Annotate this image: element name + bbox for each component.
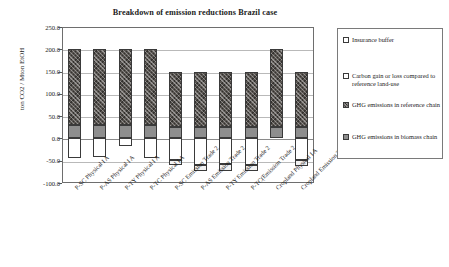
legend-swatch-buffer <box>343 37 349 43</box>
chart-legend: Insurance bufferCarbon gain or loss comp… <box>337 28 443 159</box>
y-axis-tick-label: 200.0 <box>20 46 60 53</box>
bar-segment-biomass <box>194 127 207 138</box>
legend-item[interactable]: Insurance buffer <box>343 36 442 44</box>
y-axis-tick-label: -50.0 <box>20 157 60 164</box>
bar-segment-reference <box>245 72 258 128</box>
chart-title: Breakdown of emission reductions Brazil … <box>60 8 330 18</box>
legend-label: GHG emissions in biomass chain <box>352 133 442 141</box>
legend-swatch-reference <box>343 102 349 108</box>
y-axis-tick-mark <box>58 183 62 184</box>
bar-segment-reference <box>219 72 232 128</box>
y-axis-title: ton CO2 / Mton EtOH <box>18 19 26 139</box>
bar-segment-reference <box>169 72 182 128</box>
bar-segment-reference <box>295 72 308 128</box>
bar-segment-biomass <box>219 127 232 138</box>
y-axis-tick-label: 0.0 <box>20 135 60 142</box>
bar-group[interactable] <box>68 27 81 183</box>
y-axis-tick-label: 150.0 <box>20 68 60 75</box>
legend-item[interactable]: GHG emissions in reference chain <box>343 101 442 109</box>
x-axis-category-labels: P-SC Physical I AP-AS Physical I AP-TY P… <box>0 186 449 267</box>
bar-segment-reference <box>194 72 207 128</box>
chart-container: Breakdown of emission reductions Brazil … <box>0 0 449 267</box>
legend-label: GHG emissions in reference chain <box>352 101 442 109</box>
bar-segment-biomass <box>68 125 81 138</box>
bar-segment-reference <box>93 49 106 125</box>
legend-label: Carbon gain or loss compared to referenc… <box>352 72 442 87</box>
bar-segment-biomass <box>169 127 182 138</box>
bar-segment-biomass <box>93 125 106 138</box>
legend-swatch-biomass <box>343 134 349 140</box>
legend-swatch-carbon <box>343 73 349 79</box>
bar-segment-biomass <box>144 125 157 138</box>
bar-segment-carbon <box>119 138 132 145</box>
bar-segment-biomass <box>295 127 308 138</box>
y-axis-tick-label: 100.0 <box>20 90 60 97</box>
legend-item[interactable]: GHG emissions in biomass chain <box>343 133 442 141</box>
bar-segment-biomass <box>119 125 132 138</box>
bar-segment-reference <box>119 49 132 125</box>
legend-item[interactable]: Carbon gain or loss compared to referenc… <box>343 72 442 87</box>
bar-segment-biomass <box>270 127 283 138</box>
y-axis-tick-label: 250.0 <box>20 24 60 31</box>
bar-segment-reference <box>68 49 81 125</box>
bar-segment-biomass <box>245 127 258 138</box>
bar-segment-carbon <box>68 138 81 158</box>
legend-label: Insurance buffer <box>352 36 442 44</box>
bar-segment-reference <box>270 49 283 127</box>
y-axis-tick-label: 50.0 <box>20 113 60 120</box>
bar-segment-reference <box>144 49 157 125</box>
